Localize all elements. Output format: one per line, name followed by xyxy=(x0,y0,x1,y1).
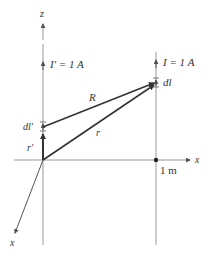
wire-position-dot xyxy=(154,158,158,162)
biot-savart-diagram: z I′ = 1 A I = 1 A x 1 m x r′ dl′ R r xyxy=(0,0,209,256)
r-vector xyxy=(43,85,154,160)
right-wire: I = 1 A xyxy=(156,52,195,245)
r-label: r xyxy=(96,127,100,138)
distance-label: 1 m xyxy=(160,164,177,176)
z-axis-label: z xyxy=(39,8,44,19)
R-vector xyxy=(43,83,154,127)
dl-prime-label: dl′ xyxy=(23,121,34,132)
left-current-label: I′ = 1 A xyxy=(49,58,84,70)
R-label: R xyxy=(88,91,96,103)
x-axis-diagonal-label: x xyxy=(9,237,15,248)
x-axis-diagonal: x xyxy=(9,160,43,248)
x-axis-horizontal: x 1 m xyxy=(14,154,200,176)
dl-label: dl xyxy=(163,76,172,88)
r-prime-label: r′ xyxy=(27,142,34,153)
left-current-text: I′ = 1 A xyxy=(49,58,84,70)
right-current-label: I = 1 A xyxy=(162,56,195,68)
x-axis-label: x xyxy=(194,154,200,165)
